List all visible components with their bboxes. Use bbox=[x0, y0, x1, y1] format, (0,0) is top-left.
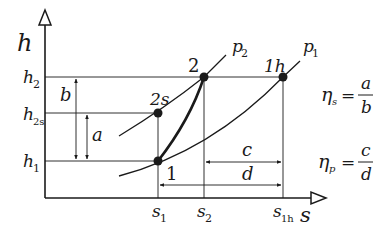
state-points bbox=[154, 73, 288, 166]
point-1 bbox=[154, 157, 163, 166]
dim-label-c: c bbox=[242, 139, 252, 160]
x-tick-s2: s 2 bbox=[197, 201, 212, 225]
point-2 bbox=[200, 73, 209, 82]
svg-text:c: c bbox=[361, 140, 371, 160]
svg-text:1: 1 bbox=[312, 47, 319, 60]
point-label-1h: 1h bbox=[264, 56, 286, 76]
isobar-label-p1: p 1 bbox=[303, 36, 319, 60]
y-axis-label: h bbox=[17, 29, 32, 57]
point-label-1: 1 bbox=[166, 163, 177, 184]
svg-text:2s: 2s bbox=[33, 116, 45, 127]
svg-text:b: b bbox=[361, 97, 372, 117]
svg-text:=: = bbox=[341, 152, 355, 172]
isobar-p2 bbox=[119, 55, 226, 136]
y-tick-h2s: h 2s bbox=[23, 104, 45, 127]
dim-label-a: a bbox=[92, 124, 103, 145]
y-axis-arrow-icon bbox=[39, 10, 51, 25]
point-label-2: 2 bbox=[188, 55, 199, 76]
x-tick-s1h: s 1h bbox=[273, 201, 294, 224]
svg-text:a: a bbox=[361, 73, 371, 93]
y-tick-h1: h 1 bbox=[23, 151, 40, 175]
dim-label-d: d bbox=[242, 163, 254, 184]
point-2s bbox=[154, 109, 163, 118]
svg-text:=: = bbox=[341, 85, 355, 105]
svg-text:1h: 1h bbox=[281, 213, 294, 224]
y-tick-h2: h 2 bbox=[23, 67, 40, 91]
formula-isentropic-efficiency: η s = a b bbox=[321, 73, 373, 117]
svg-text:2: 2 bbox=[241, 47, 248, 60]
x-tick-s1: s 1 bbox=[152, 201, 167, 225]
x-axis-label: s bbox=[300, 203, 311, 227]
isobar-label-p2: p 2 bbox=[232, 36, 248, 60]
svg-text:1: 1 bbox=[160, 212, 167, 225]
svg-text:1: 1 bbox=[33, 162, 40, 175]
svg-text:s: s bbox=[332, 96, 337, 107]
x-axis-arrow-icon bbox=[311, 192, 326, 204]
h-s-diagram: h s h 2 h 2s h 1 s 1 s 2 s 1h p 2 p 1 1 … bbox=[0, 0, 385, 232]
svg-text:d: d bbox=[361, 164, 372, 184]
dim-label-b: b bbox=[60, 84, 72, 105]
formula-polytropic-efficiency: η p = c d bbox=[318, 140, 373, 184]
svg-text:p: p bbox=[329, 163, 336, 174]
svg-text:2: 2 bbox=[205, 212, 212, 225]
point-label-2s: 2s bbox=[149, 89, 170, 109]
svg-text:2: 2 bbox=[33, 78, 40, 91]
